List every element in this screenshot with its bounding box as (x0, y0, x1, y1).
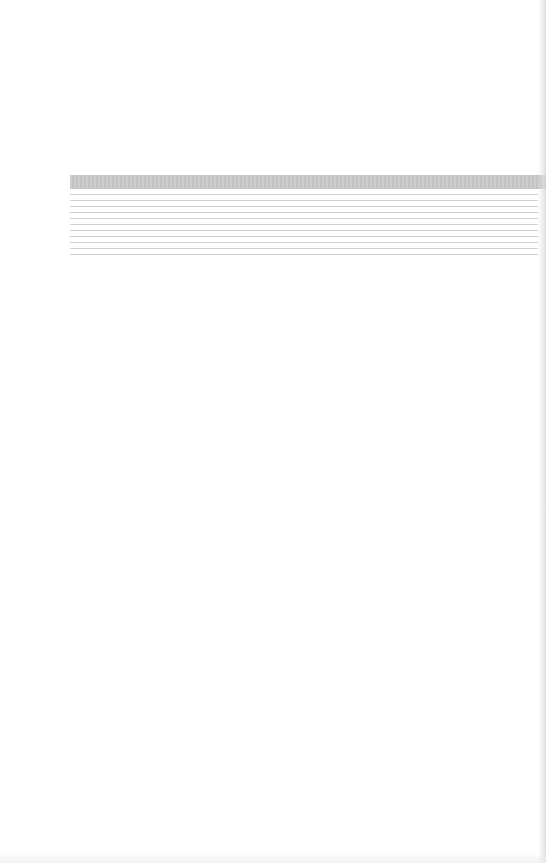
ruled-lines (70, 189, 546, 255)
page-bottom-shadow (0, 853, 546, 863)
form-header-bar (70, 175, 546, 189)
page-edge-shadow (538, 0, 546, 863)
ruled-line (70, 249, 538, 255)
ruled-form-section (70, 175, 546, 255)
document-page (0, 0, 546, 863)
